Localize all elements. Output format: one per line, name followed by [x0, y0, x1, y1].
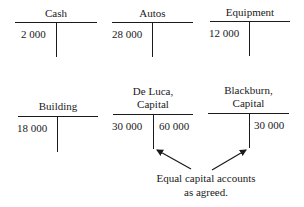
arrow-to-de-luca-icon — [157, 150, 191, 169]
annotation-line2: as agreed. — [145, 186, 267, 199]
arrow-to-blackburn-icon — [212, 150, 246, 170]
annotation-line1: Equal capital accounts — [145, 172, 267, 185]
